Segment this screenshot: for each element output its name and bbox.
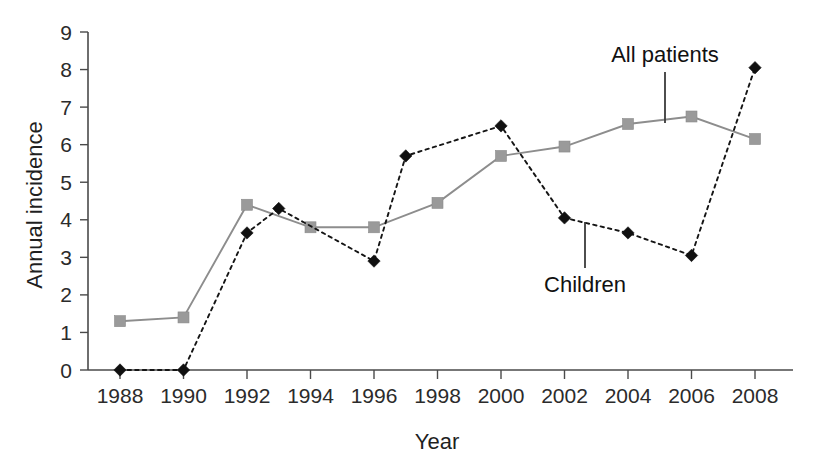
series-all-patients (115, 111, 761, 327)
series-label-all-patients: All patients (611, 42, 719, 67)
data-point-marker (400, 150, 412, 162)
y-axis: 0123456789 (60, 21, 88, 382)
data-point-marker (178, 312, 189, 323)
data-point-marker (685, 249, 697, 261)
x-tick-label: 1994 (287, 384, 334, 407)
y-tick-label: 2 (60, 283, 72, 306)
series-line (120, 68, 755, 370)
x-axis-title: Year (415, 429, 459, 454)
data-point-marker (432, 197, 443, 208)
y-tick-label: 1 (60, 321, 72, 344)
data-point-marker (622, 227, 634, 239)
y-tick-label: 7 (60, 96, 72, 119)
y-axis-title: Annual incidence (22, 121, 47, 289)
x-tick-label: 1990 (160, 384, 207, 407)
data-point-marker (369, 222, 380, 233)
data-point-marker (496, 150, 507, 161)
x-tick-label: 2008 (732, 384, 779, 407)
series-children (114, 61, 761, 376)
x-tick-label: 1996 (351, 384, 398, 407)
y-tick-label: 8 (60, 58, 72, 81)
y-tick-label: 3 (60, 246, 72, 269)
y-tick-label: 5 (60, 171, 72, 194)
data-point-marker (305, 222, 316, 233)
x-axis-ticks: 1988199019921994199619982000200220042006… (97, 370, 779, 407)
data-point-marker (368, 255, 380, 267)
y-tick-label: 0 (60, 359, 72, 382)
data-point-marker (749, 61, 761, 73)
annotation-all-patients: All patients (611, 42, 719, 123)
chart-page: 0123456789 19881990199219941996199820002… (0, 0, 828, 470)
x-tick-label: 1988 (97, 384, 144, 407)
data-point-marker (242, 199, 253, 210)
data-point-marker (273, 202, 285, 214)
series-line (120, 117, 755, 322)
y-tick-label: 6 (60, 133, 72, 156)
series-layer (114, 61, 761, 376)
data-point-marker (114, 364, 126, 376)
y-axis-ticks: 0123456789 (60, 21, 88, 382)
annotation-children: Children (544, 222, 626, 297)
data-point-marker (558, 212, 570, 224)
data-point-marker (750, 134, 761, 145)
data-point-marker (686, 111, 697, 122)
x-tick-label: 2002 (541, 384, 588, 407)
x-tick-label: 2004 (605, 384, 652, 407)
x-tick-label: 2006 (668, 384, 715, 407)
incidence-line-chart: 0123456789 19881990199219941996199820002… (0, 0, 828, 470)
series-label-children: Children (544, 272, 626, 297)
x-tick-label: 1992 (224, 384, 271, 407)
data-point-marker (115, 316, 126, 327)
data-point-marker (495, 120, 507, 132)
x-tick-label: 1998 (414, 384, 461, 407)
data-point-marker (559, 141, 570, 152)
x-tick-label: 2000 (478, 384, 525, 407)
data-point-marker (177, 364, 189, 376)
y-tick-label: 9 (60, 21, 72, 44)
y-tick-label: 4 (60, 208, 72, 231)
x-axis: 1988199019921994199619982000200220042006… (88, 370, 793, 407)
data-point-marker (623, 119, 634, 130)
